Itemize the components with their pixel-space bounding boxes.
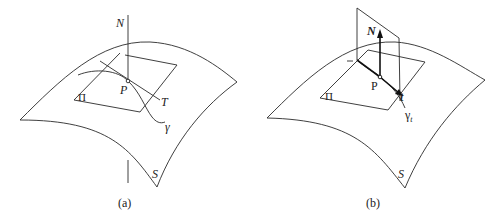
label-t-b: t <box>400 90 404 104</box>
caption-a: (a) <box>118 196 131 210</box>
label-n-a: N <box>115 16 125 30</box>
point-p-b <box>378 75 382 79</box>
label-gamma-a: γ <box>165 120 170 134</box>
label-gamma-t-b: γt <box>404 108 413 124</box>
tangent-line-b <box>357 60 380 77</box>
label-p-a: P <box>119 83 128 97</box>
gamma-subscript-b: t <box>410 115 413 124</box>
tangent-vector-t-b <box>380 77 399 93</box>
label-t-a: T <box>161 95 169 109</box>
panel-b-vectors <box>357 29 403 96</box>
caption-b: (b) <box>366 196 380 210</box>
label-s-b: S <box>398 167 404 181</box>
surface-a <box>20 42 237 187</box>
figure: N P T γ Π S (a) N P t γt Π <box>0 0 497 216</box>
panel-b <box>267 8 485 188</box>
curve-gamma-t-b <box>357 60 405 108</box>
panel-a <box>20 15 237 187</box>
label-pi-b: Π <box>325 90 333 102</box>
label-pi-a: Π <box>78 91 86 103</box>
normal-arrowhead-b <box>377 29 383 38</box>
surface-b <box>267 42 485 188</box>
label-s-a: S <box>152 167 158 181</box>
label-p-b: P <box>371 79 378 93</box>
label-n-b: N <box>366 24 377 38</box>
